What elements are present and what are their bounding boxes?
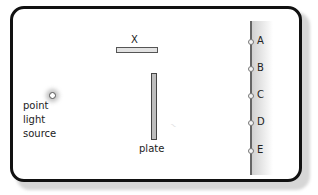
screen-point-label: B	[257, 62, 264, 73]
screen-point-label: D	[257, 116, 265, 127]
source-label-line: source	[23, 127, 56, 141]
screen-point-a	[248, 39, 254, 45]
obstacle-label: X	[131, 34, 138, 45]
screen-point-c	[248, 93, 254, 99]
point-light-source-icon	[49, 92, 56, 99]
plate-label: plate	[139, 143, 164, 154]
obstacle-x	[116, 47, 158, 53]
screen-point-b	[248, 66, 254, 72]
source-label-line: light	[23, 113, 56, 127]
screen-point-d	[248, 120, 254, 126]
screen-point-label: A	[257, 35, 264, 46]
screen-point-label: E	[257, 144, 263, 155]
plate	[151, 73, 157, 140]
screen-point-label: C	[257, 89, 264, 100]
screen-point-e	[248, 148, 254, 154]
source-label-line: point	[23, 99, 56, 113]
source-label: point light source	[23, 99, 56, 141]
